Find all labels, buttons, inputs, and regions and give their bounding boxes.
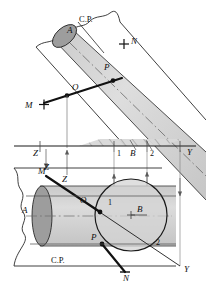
point-P-top [111,78,116,83]
label-O-front: O [80,195,87,205]
label-2-front: 2 [156,238,160,247]
label-B-front: B [137,204,143,214]
point-O-front [98,210,103,215]
label-1-reference: 1 [117,149,121,158]
label-P-top: P [103,62,110,72]
label-M-top: M [24,100,33,110]
label-B-reference: B [130,148,136,158]
label-A-top: A [66,25,73,35]
label-cp-front: C.P. [51,255,65,265]
label-N-top: N [130,36,138,46]
descriptive-geometry-figure: Z 1 B 2 Y Z [0,0,206,289]
label-cp-top: C.P. [79,14,93,24]
label-A-front: A [21,205,28,215]
label-1-front: 1 [108,198,112,207]
label-N-front: N [122,273,130,283]
label-M-front: M [37,166,46,176]
label-2-reference: 2 [150,149,154,158]
label-P-front: P [90,232,97,242]
label-O-top: O [72,82,79,92]
figure-root: Z 1 B 2 Y Z [0,0,206,289]
